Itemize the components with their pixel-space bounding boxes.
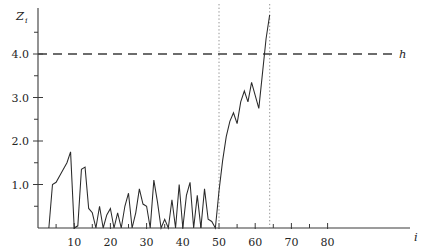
y-tick-label: 2.0 xyxy=(12,135,30,148)
y-tick-label: 4.0 xyxy=(12,48,30,61)
data-series-group xyxy=(49,15,270,228)
vertical-marker-lines xyxy=(219,4,270,228)
threshold-group: h xyxy=(38,47,406,61)
x-axis-tick-labels: 1020304050607080 xyxy=(67,236,334,249)
y-axis-tick-labels: 1.02.03.04.0 xyxy=(12,48,30,192)
y-axis-minor-ticks xyxy=(34,32,38,206)
x-tick-label: 10 xyxy=(67,236,81,249)
x-tick-label: 80 xyxy=(321,236,335,249)
x-tick-label: 30 xyxy=(140,236,154,249)
x-tick-label: 70 xyxy=(284,236,298,249)
x-tick-label: 20 xyxy=(103,236,117,249)
y-axis-group: 1.02.03.04.0 xyxy=(12,8,44,228)
y-tick-label: 1.0 xyxy=(12,179,30,192)
x-tick-label: 60 xyxy=(248,236,262,249)
y-tick-label: 3.0 xyxy=(12,92,30,105)
x-axis-group: 1020304050607080 xyxy=(38,223,410,249)
data-series-line-zi xyxy=(49,15,270,228)
chart-container: 1.02.03.04.0 1020304050607080 h Z i i xyxy=(0,0,429,252)
y-axis-title-subscript: i xyxy=(25,16,28,25)
threshold-label-h: h xyxy=(399,47,406,61)
line-chart: 1.02.03.04.0 1020304050607080 h Z i i xyxy=(0,0,429,252)
x-tick-label: 40 xyxy=(176,236,190,249)
x-axis-title: i xyxy=(414,230,418,244)
y-axis-title-group: Z i xyxy=(15,9,28,25)
x-tick-label: 50 xyxy=(212,236,226,249)
y-axis-title: Z xyxy=(15,9,25,23)
